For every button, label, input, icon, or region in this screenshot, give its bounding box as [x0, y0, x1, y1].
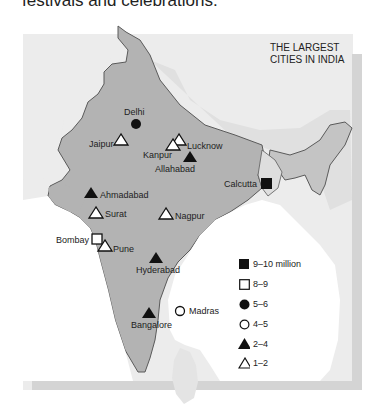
legend-item-8-9: 8–9 — [238, 278, 268, 290]
legend-item-4-5: 4–5 — [238, 318, 268, 330]
city-label-lucknow: Lucknow — [187, 141, 223, 151]
sri-lanka — [172, 348, 198, 404]
madras-marker — [176, 307, 185, 316]
legend-item-2-4: 2–4 — [238, 338, 268, 350]
legend-label: 1–2 — [253, 358, 268, 368]
filled-square-icon — [238, 258, 250, 270]
city-label-jaipur: Jaipur — [89, 139, 114, 149]
legend-label: 5–6 — [253, 299, 268, 309]
map-title-line1: THE LARGEST — [270, 42, 344, 54]
bombay-marker — [92, 234, 102, 244]
legend-label: 4–5 — [253, 319, 268, 329]
delhi-marker — [131, 119, 141, 129]
legend-label: 2–4 — [253, 339, 268, 349]
city-label-calcutta: Calcutta — [224, 179, 257, 189]
open-square-icon — [238, 278, 250, 290]
city-label-delhi: Delhi — [124, 107, 145, 117]
map-title: THE LARGEST CITIES IN INDIA — [270, 42, 344, 66]
city-label-nagpur: Nagpur — [175, 211, 205, 221]
open-circle-icon — [238, 318, 250, 330]
city-label-surat: Surat — [105, 209, 127, 219]
legend-item-1-2: 1–2 — [238, 357, 268, 369]
calcutta-marker — [261, 178, 272, 189]
city-label-hyderabad: Hyderabad — [136, 265, 180, 275]
city-label-pune: Pune — [113, 244, 134, 254]
city-label-ahmadabad: Ahmadabad — [100, 190, 149, 200]
city-label-madras: Madras — [189, 306, 219, 316]
city-label-bombay: Bombay — [56, 235, 89, 245]
city-label-bangalore: Bangalore — [131, 320, 172, 330]
legend-label: 9–10 million — [253, 259, 301, 269]
map-title-line2: CITIES IN INDIA — [270, 54, 344, 66]
filled-circle-icon — [238, 298, 250, 310]
filled-triangle-icon — [238, 338, 250, 350]
legend-label: 8–9 — [253, 279, 268, 289]
open-triangle-icon — [238, 357, 250, 369]
legend-item-5-6: 5–6 — [238, 298, 268, 310]
city-label-kanpur: Kanpur — [143, 150, 172, 160]
legend-item-9-10: 9–10 million — [238, 258, 301, 270]
city-label-allahabad: Allahabad — [155, 164, 195, 174]
